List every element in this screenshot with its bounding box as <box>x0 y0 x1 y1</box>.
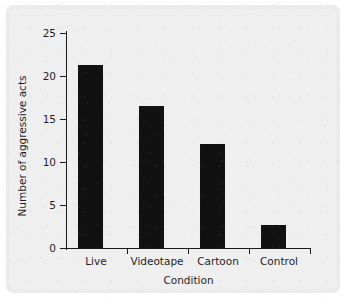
y-tick-25 <box>60 33 66 34</box>
y-tick-label-0: 0 <box>28 243 56 254</box>
x-tick-3 <box>249 249 250 254</box>
y-tick-label-20: 20 <box>28 71 56 82</box>
y-tick-20 <box>60 76 66 77</box>
y-axis-title: Number of aggressive acts <box>16 66 28 226</box>
y-tick-label-15: 15 <box>28 114 56 125</box>
bar-videotape <box>139 106 164 248</box>
y-tick-15 <box>60 119 66 120</box>
y-tick-label-10: 10 <box>28 157 56 168</box>
bars-layer <box>67 33 311 248</box>
x-tick-4 <box>310 249 311 254</box>
y-tick-label-25: 25 <box>28 28 56 39</box>
y-tick-label-5: 5 <box>28 200 56 211</box>
bar-control <box>261 225 286 248</box>
bar-cartoon <box>200 144 225 248</box>
x-tick-2 <box>188 249 189 254</box>
y-tick-5 <box>60 205 66 206</box>
y-tick-10 <box>60 162 66 163</box>
bar-live <box>78 65 103 248</box>
x-tick-1 <box>127 249 128 254</box>
figure-bar-chart: 0 5 10 15 20 25 Live Videotape Cartoon C… <box>0 0 346 306</box>
x-label-control: Control <box>236 256 322 267</box>
x-axis-title: Condition <box>66 274 311 286</box>
